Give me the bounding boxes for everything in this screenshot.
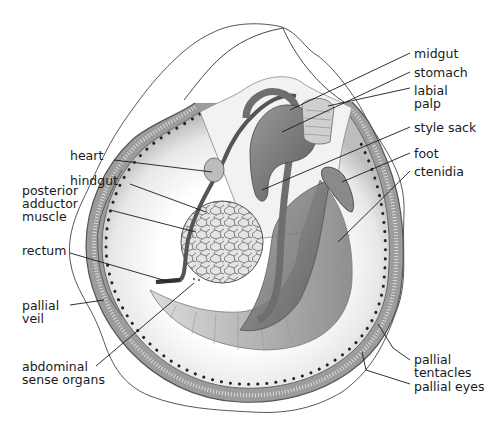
labial-palp — [302, 98, 334, 144]
label-labial-palp: labial palp — [414, 84, 448, 110]
label-ctenidia: ctenidia — [414, 165, 464, 178]
label-posterior-adductor-muscle: posterior adductor muscle — [22, 184, 78, 223]
label-foot: foot — [414, 147, 439, 160]
heart — [204, 158, 224, 182]
label-heart: heart — [70, 149, 103, 162]
label-stomach: stomach — [414, 66, 468, 79]
label-style-sack: style sack — [414, 121, 476, 134]
label-pallial-eyes: pallial eyes — [414, 380, 484, 393]
label-rectum: rectum — [22, 244, 66, 257]
label-abdominal-sense-organs: abdominal sense organs — [22, 360, 105, 386]
label-pallial-veil: pallial veil — [22, 299, 59, 325]
posterior-adductor-muscle — [181, 201, 263, 283]
label-pallial-tentacles: pallial tentacles — [414, 353, 472, 379]
label-midgut: midgut — [414, 47, 458, 60]
